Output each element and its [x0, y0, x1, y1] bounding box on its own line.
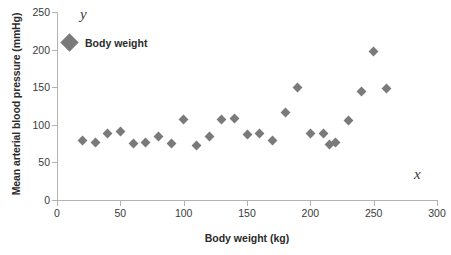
x-tick-label: 50 — [100, 208, 140, 219]
x-axis-letter-annotation: x — [414, 166, 421, 183]
x-tick-label: 100 — [164, 208, 204, 219]
chart-legend: Body weight — [63, 36, 147, 49]
x-tick-mark — [184, 201, 185, 206]
legend-diamond-icon — [60, 33, 78, 51]
y-tick-label: 150 — [4, 82, 50, 93]
x-tick-label: 200 — [290, 208, 330, 219]
x-tick-label: 300 — [417, 208, 451, 219]
x-tick-mark — [374, 201, 375, 206]
y-tick-label: 50 — [4, 157, 50, 168]
legend-item-label: Body weight — [85, 37, 147, 49]
x-tick-mark — [57, 201, 58, 206]
y-tick-label: 0 — [4, 195, 50, 206]
x-tick-mark — [247, 201, 248, 206]
x-tick-label: 250 — [354, 208, 394, 219]
y-tick-label: 100 — [4, 120, 50, 131]
x-tick-mark — [437, 201, 438, 206]
scatter-chart: Mean arterial blood pressure (mmHg) Body… — [0, 0, 451, 255]
x-tick-label: 0 — [37, 208, 77, 219]
x-tick-label: 150 — [227, 208, 267, 219]
x-tick-mark — [310, 201, 311, 206]
x-tick-mark — [120, 201, 121, 206]
x-axis-title: Body weight (kg) — [57, 232, 437, 244]
y-tick-label: 200 — [4, 45, 50, 56]
y-axis-letter-annotation: y — [80, 6, 87, 23]
y-tick-label: 250 — [4, 7, 50, 18]
